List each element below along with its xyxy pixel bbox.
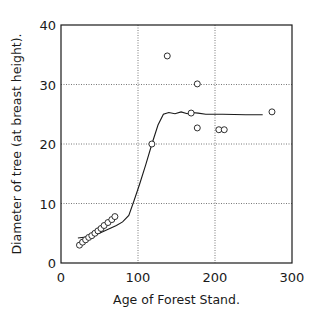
data-point [112,214,118,220]
y-axis-label: Diameter of tree (at breast height). [9,33,24,254]
x-axis-label: Age of Forest Stand. [113,292,240,307]
y-tick-label: 20 [39,137,56,152]
data-point [188,110,194,116]
x-tick-label: 200 [203,270,228,285]
data-point [194,81,200,87]
fitted-curve [78,112,263,238]
y-axis-ticks: 010203040 [39,18,56,271]
data-point [149,141,155,147]
chart: 0100200300 010203040 Age of Forest Stand… [0,0,312,315]
data-points [76,53,275,248]
x-tick-label: 0 [57,270,65,285]
x-tick-label: 300 [280,270,305,285]
data-point [221,127,227,133]
data-point [164,53,170,59]
data-point [269,109,275,115]
data-point [194,125,200,131]
y-tick-label: 10 [39,197,56,212]
y-tick-label: 40 [39,18,56,33]
x-axis-ticks: 0100200300 [57,270,305,285]
y-tick-label: 30 [39,78,56,93]
y-tick-label: 0 [48,256,56,271]
x-tick-label: 100 [126,270,151,285]
grid-lines [61,25,292,263]
